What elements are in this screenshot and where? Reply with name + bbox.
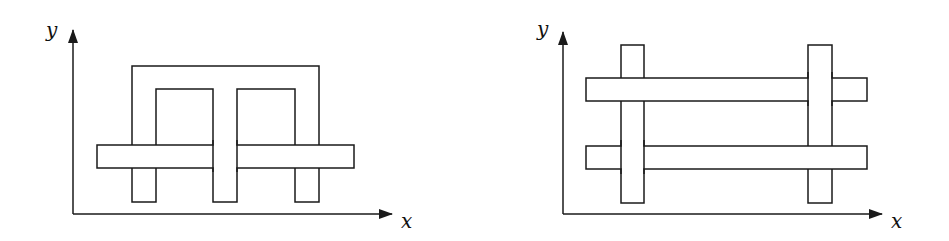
- left-y-axis-label: y: [45, 18, 58, 42]
- left-frame-band: [132, 66, 319, 202]
- right-x-axis-label: x: [891, 209, 902, 233]
- diagram-canvas: y x y x: [0, 0, 949, 241]
- right-y-axis-label: y: [536, 17, 549, 41]
- right-vertical-left-over-bottom-cover: [622, 145, 643, 170]
- left-center-stem-cover: [214, 144, 236, 169]
- right-figure: [563, 32, 882, 214]
- right-vertical-bar-right: [808, 45, 832, 203]
- right-vertical-right-over-top-cover: [809, 77, 831, 102]
- left-x-axis-label: x: [401, 209, 412, 233]
- right-vertical-bar-left: [621, 45, 644, 203]
- left-figure: [73, 30, 392, 214]
